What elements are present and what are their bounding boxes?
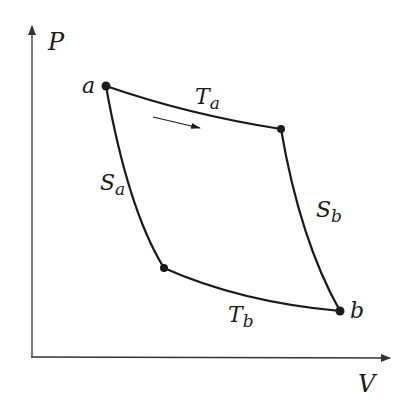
x-axis: [31, 357, 390, 358]
adiabat-a-label: Sa: [100, 170, 125, 199]
state-points: [102, 82, 345, 316]
isotherm-b-curve: [164, 268, 340, 311]
y-axis-label: P: [47, 28, 65, 56]
point-a-label: a: [82, 73, 95, 98]
point-b: [336, 307, 345, 316]
isotherm-a-label: Ta: [195, 84, 220, 113]
point-b-label: b: [350, 298, 364, 323]
direction-arrow-icon: [153, 117, 200, 128]
isotherm-a-curve: [106, 86, 281, 129]
x-axis-label: V: [358, 370, 378, 398]
point-a: [102, 82, 111, 91]
adiabat-b-label: Sb: [316, 197, 342, 226]
cycle-curves: [106, 86, 340, 311]
pv-diagram: P V a b Ta Sb Tb Sa: [0, 0, 408, 411]
isotherm-b-label: Tb: [228, 302, 254, 331]
point-d: [160, 264, 168, 272]
labels: P V a b Ta Sb Tb Sa: [47, 28, 378, 398]
point-c: [277, 125, 285, 133]
